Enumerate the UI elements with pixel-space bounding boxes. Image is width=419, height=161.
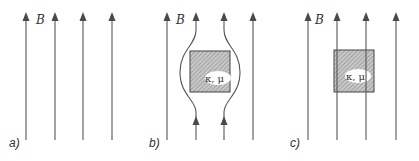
field-line (52, 12, 59, 140)
panel-label-a: a) (9, 136, 20, 150)
field-label-b: B (314, 13, 324, 27)
field-line (250, 12, 257, 140)
material-label: κ, μ (346, 71, 366, 82)
field-line (305, 12, 312, 140)
panel-label-b: b) (149, 136, 160, 150)
magnetic-field-diagram: B a) κ, μ B b) κ, μ B c) (0, 0, 419, 161)
field-label-b: B (175, 13, 185, 27)
panel-a: B a) (9, 12, 116, 150)
field-line (164, 12, 171, 140)
field-line (393, 12, 400, 140)
material-block (190, 51, 230, 92)
panel-b: κ, μ B b) (149, 12, 257, 150)
material-label: κ, μ (205, 73, 225, 84)
panel-label-c: c) (290, 136, 300, 150)
field-label-b: B (35, 13, 45, 27)
field-line (80, 12, 87, 140)
field-line (109, 12, 116, 140)
field-line (23, 12, 30, 140)
panel-c: κ, μ B c) (290, 12, 400, 150)
